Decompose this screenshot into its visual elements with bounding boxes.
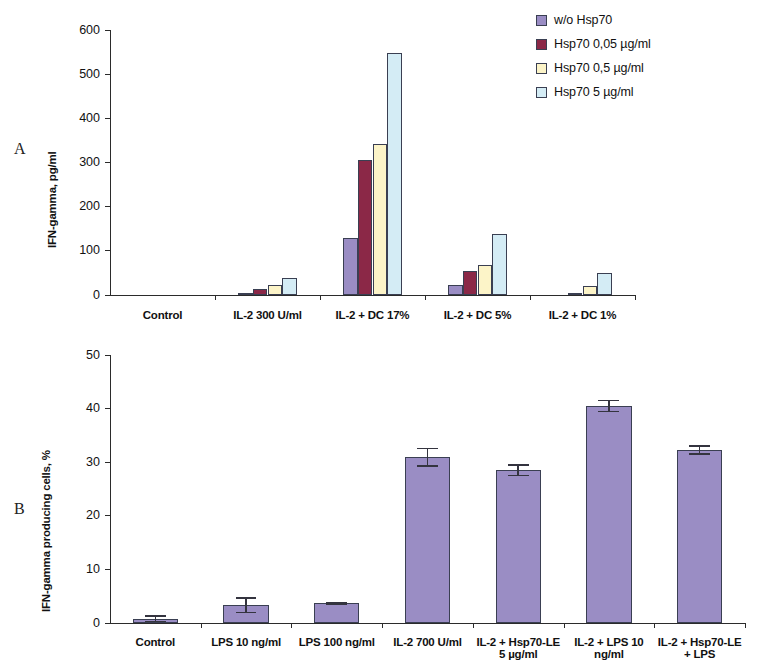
bar [568,293,583,295]
bar [583,286,598,295]
y-tick-mark [105,118,110,119]
bar [343,238,358,295]
x-category-label: IL-2 700 U/ml [382,636,473,648]
error-bar [689,445,710,455]
y-tick-mark [105,250,110,251]
x-category-label: LPS 10 ng/ml [201,636,292,648]
panel-b-letter: B [14,500,25,518]
y-tick-label: 200 [58,200,100,213]
bar [405,457,450,623]
bar [463,271,478,295]
y-tick-mark [105,30,110,31]
error-bar [326,602,347,605]
bar [314,603,359,623]
x-category-label: Control [110,309,215,321]
figure: w/o Hsp70Hsp70 0,05 µg/mlHsp70 0,5 µg/ml… [0,0,757,670]
bar [268,285,283,295]
x-category-label: IL-2 300 U/ml [215,309,320,321]
x-tick-mark [564,623,565,628]
x-tick-mark [654,623,655,628]
bar [492,234,507,295]
y-tick-mark [105,355,110,356]
bar [478,265,493,295]
y-tick-label: 20 [58,509,100,522]
y-tick-label: 400 [58,112,100,125]
x-tick-mark [201,623,202,628]
y-tick-mark [105,462,110,463]
y-tick-mark [105,162,110,163]
y-tick-mark [105,74,110,75]
y-tick-label: 50 [58,349,100,362]
y-axis-line [110,355,111,623]
x-category-label: IL-2 + DC 17% [320,309,425,321]
y-tick-mark [105,515,110,516]
bar [448,285,463,295]
error-bar [236,597,257,613]
y-tick-label: 30 [58,456,100,469]
x-tick-mark [291,623,292,628]
legend-swatch-icon [536,15,547,26]
panel-b-y-axis-title: IFN-gamma producing cells, % [40,450,52,612]
y-tick-label: 40 [58,402,100,415]
bar [238,293,253,295]
x-tick-mark [320,295,321,300]
error-bar [508,464,529,476]
y-tick-mark [105,623,110,624]
x-tick-mark [745,623,746,628]
bar [358,160,373,295]
x-tick-mark [635,295,636,300]
y-tick-label: 0 [58,617,100,630]
x-tick-mark [425,295,426,300]
error-bar [145,615,166,623]
panel-a-y-axis-title: IFN-gamma, pg/ml [46,152,58,248]
x-tick-mark [473,623,474,628]
error-bar [598,400,619,413]
y-tick-mark [105,295,110,296]
bar [586,406,631,623]
bar [373,144,388,295]
y-tick-mark [105,408,110,409]
x-category-label: IL-2 + Hsp70-LE + LPS [654,636,745,661]
x-axis-line [110,623,745,624]
bar [597,273,612,295]
x-category-label: LPS 100 ng/ml [291,636,382,648]
y-tick-mark [105,206,110,207]
panel-b-plot-area: 01020304050ControlLPS 10 ng/mlLPS 100 ng… [110,355,745,623]
x-category-label: IL-2 + DC 1% [530,309,635,321]
legend-item: w/o Hsp70 [536,8,651,32]
x-category-label: IL-2 + Hsp70-LE 5 µg/ml [473,636,564,661]
legend-label: w/o Hsp70 [554,13,612,27]
y-tick-label: 600 [58,24,100,37]
bar [253,289,268,295]
y-tick-label: 0 [58,289,100,302]
error-bar [417,448,438,467]
x-axis-line [110,295,635,296]
y-tick-label: 300 [58,156,100,169]
x-category-label: IL-2 + DC 5% [425,309,530,321]
y-axis-line [110,30,111,295]
bar [387,53,402,295]
bar [282,278,297,295]
y-tick-label: 10 [58,563,100,576]
y-tick-label: 500 [58,68,100,81]
bar [496,470,541,623]
y-tick-mark [105,569,110,570]
x-tick-mark [382,623,383,628]
bar [677,450,722,623]
panel-a-plot-area: 0100200300400500600ControlIL-2 300 U/mlI… [110,30,635,295]
x-category-label: Control [110,636,201,648]
y-tick-label: 100 [58,244,100,257]
panel-a-letter: A [14,140,26,158]
x-tick-mark [215,295,216,300]
x-tick-mark [530,295,531,300]
x-category-label: IL-2 + LPS 10 ng/ml [564,636,655,661]
